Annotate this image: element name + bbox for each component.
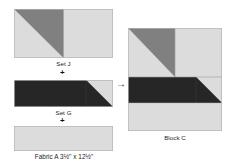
plus-operator-1: +: [60, 69, 65, 77]
unit-set-j: [14, 9, 113, 58]
arrow-operator: →: [116, 79, 126, 89]
block-c-icon: [128, 28, 222, 131]
unit-block-c-label: Block C: [128, 134, 222, 142]
unit-set-j-label: Set J: [14, 60, 113, 68]
set-g-icon: [14, 80, 113, 107]
unit-fabric-a: [14, 126, 113, 151]
fabric-a-icon: [14, 126, 113, 151]
unit-fabric-a-label: Fabric A 3½" x 12½": [0, 153, 128, 161]
plus-operator-2: +: [60, 117, 65, 125]
set-j-icon: [14, 9, 113, 58]
unit-set-g: [14, 80, 113, 107]
assembly-diagram: Set J + Set G + Fabric A 3½" x 12½" →: [0, 0, 242, 166]
unit-block-c: [128, 28, 222, 131]
